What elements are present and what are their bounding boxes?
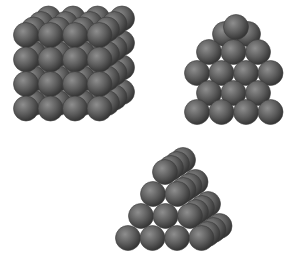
sphere xyxy=(234,100,259,125)
sphere xyxy=(209,100,234,125)
sphere xyxy=(224,15,249,40)
sphere xyxy=(153,204,178,229)
cubic-structure xyxy=(14,6,135,121)
sphere-packing-diagram xyxy=(0,0,294,267)
sphere xyxy=(38,96,63,121)
sphere xyxy=(87,47,112,72)
sphere xyxy=(189,226,214,251)
sphere xyxy=(14,96,39,121)
sphere xyxy=(165,182,190,207)
sphere xyxy=(129,204,154,229)
sphere xyxy=(153,160,178,185)
sphere xyxy=(116,226,141,251)
sphere xyxy=(38,23,63,48)
sphere xyxy=(38,47,63,72)
hexagonal-structure xyxy=(185,15,284,125)
sphere xyxy=(87,23,112,48)
sphere xyxy=(87,72,112,97)
sphere xyxy=(38,72,63,97)
sphere xyxy=(14,47,39,72)
sphere xyxy=(141,182,166,207)
sphere xyxy=(63,72,88,97)
pyramid-structure xyxy=(116,148,233,251)
sphere xyxy=(165,226,190,251)
sphere xyxy=(14,23,39,48)
sphere xyxy=(63,47,88,72)
sphere xyxy=(63,96,88,121)
sphere xyxy=(63,23,88,48)
sphere xyxy=(140,226,165,251)
sphere xyxy=(178,204,203,229)
sphere xyxy=(258,100,283,125)
sphere xyxy=(87,96,112,121)
sphere xyxy=(185,100,210,125)
sphere xyxy=(14,72,39,97)
